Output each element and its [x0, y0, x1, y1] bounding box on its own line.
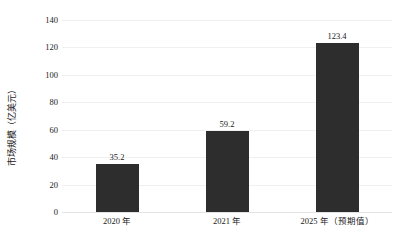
- gridline: [62, 20, 392, 21]
- bar-value-label: 35.2: [110, 153, 125, 162]
- bar-value-label: 59.2: [220, 120, 235, 129]
- bar-2[interactable]: 59.2: [206, 131, 249, 212]
- y-axis-tick-labels: 020406080100120140: [0, 20, 58, 212]
- x-axis-tick-label: 2025 年（预期值）: [300, 217, 373, 226]
- x-axis-tick-label: 2020 年: [103, 217, 131, 226]
- plot-area: 35.259.2123.4: [62, 20, 392, 212]
- y-axis-tick-label: 60: [4, 125, 58, 134]
- bar-3[interactable]: 123.4: [316, 43, 359, 212]
- x-axis-tick-label: 2021 年: [213, 217, 241, 226]
- bar-rect: [96, 164, 139, 212]
- y-axis-tick-label: 120: [4, 43, 58, 52]
- bar-1[interactable]: 35.2: [96, 164, 139, 212]
- y-axis-tick-label: 100: [4, 71, 58, 80]
- y-axis-tick-label: 140: [4, 16, 58, 25]
- bar-value-label: 123.4: [327, 32, 346, 41]
- bar-rect: [316, 43, 359, 212]
- y-axis-tick-label: 0: [4, 208, 58, 217]
- bar-chart: 市场规模（亿美元） 020406080100120140 35.259.2123…: [0, 0, 416, 250]
- y-axis-tick-label: 20: [4, 180, 58, 189]
- x-axis-tick-labels: 2020 年2021 年2025 年（预期值）: [62, 214, 392, 238]
- bar-rect: [206, 131, 249, 212]
- gridline: [62, 212, 392, 213]
- y-axis-tick-label: 40: [4, 153, 58, 162]
- y-axis-tick-label: 80: [4, 98, 58, 107]
